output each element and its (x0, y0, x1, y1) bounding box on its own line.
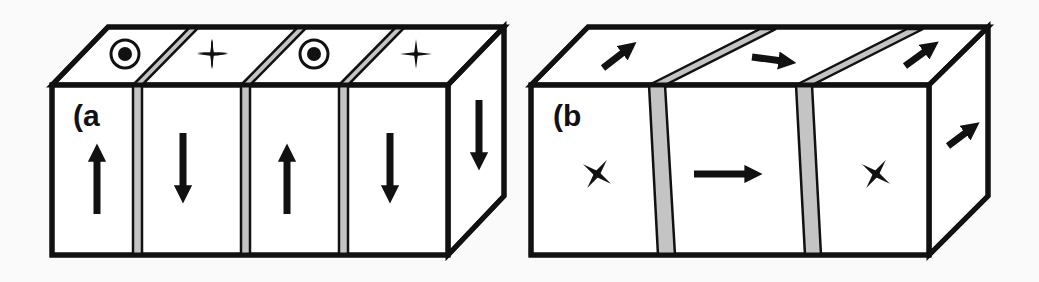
panel-b-label: (b (553, 101, 581, 131)
arrow-right-icon (752, 57, 782, 61)
panel-a-label: (a (73, 101, 100, 131)
domain-diagram (0, 0, 1039, 282)
figure: (a (b (0, 0, 1039, 282)
panel-b (531, 27, 988, 255)
panel-a (52, 27, 504, 255)
